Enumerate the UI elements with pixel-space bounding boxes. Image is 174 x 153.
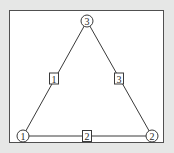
node-1-label: 1 <box>21 131 26 142</box>
edge-label-3-text: 3 <box>117 74 122 85</box>
edge-label-1: 1 <box>50 73 59 85</box>
edge-label-2-text: 2 <box>85 131 90 142</box>
node-3-label: 3 <box>85 16 90 27</box>
edge-label-2: 2 <box>83 131 92 143</box>
node-3: 3 <box>81 15 93 27</box>
node-1: 1 <box>17 130 29 142</box>
node-2: 2 <box>146 130 158 142</box>
node-2-label: 2 <box>150 131 155 142</box>
edge-label-3: 3 <box>115 73 124 85</box>
triangle-graph: 1 2 3 1 2 3 <box>0 0 174 153</box>
edge-label-1-text: 1 <box>52 74 57 85</box>
